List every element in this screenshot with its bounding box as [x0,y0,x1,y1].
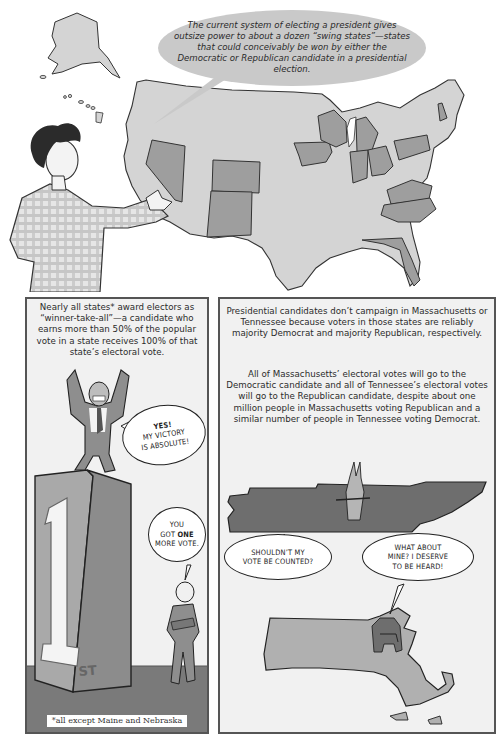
elephant-speech-line-2: MINE? I DESERVE [388,552,448,562]
nantucket-shape [428,716,442,724]
massachusetts-shape [264,608,454,706]
donkey-speech-line-2: VOTE BE COUNTED? [243,557,314,567]
voter-speech-line-3: MORE VOTE. [155,539,199,549]
voter-bubble-tail [185,565,191,580]
presenter-figure [0,110,180,292]
narration-text: The current system of electing a preside… [172,20,412,75]
marthas-vineyard-shape [390,712,408,720]
voter-speech-line-2-pre: GOT [160,530,177,539]
voter-speech-bubble: YOU GOT ONE MORE VOTE. [148,507,206,562]
elephant-speech-line-3: TO BE HEARD! [388,562,448,572]
first-place-pedestal [35,470,131,692]
donkey-speech-bubble: SHOULDN’T MY VOTE BE COUNTED? [224,534,332,580]
voter-speech-emphasis: ONE [178,530,194,539]
footnote: *all except Maine and Nebraska [47,715,187,727]
pedestal-suffix-st: ST [78,662,98,679]
alaska-shape [48,13,120,78]
colorado-shape [212,160,260,193]
safe-states-caption-2: All of Massachusetts’ electoral votes wi… [226,369,488,425]
elephant-speech-bubble: WHAT ABOUT MINE? I DESERVE TO BE HEARD! [362,533,474,581]
state-maps-illustration [220,458,494,732]
elephant-speech-line-1: WHAT ABOUT [388,543,448,553]
top-panel-map-illustration: The current system of electing a preside… [0,0,503,292]
donkey-speech-line-1: SHOULDN’T MY [243,548,314,558]
winner-take-all-caption: Nearly all states* award electors as “wi… [30,302,204,358]
new-mexico-shape [207,191,252,237]
safe-states-caption-1: Presidential candidates don’t campaign i… [226,306,488,340]
voter-speech-line-1: YOU [155,520,199,530]
indiana-shape [350,150,368,183]
winning-candidate-figure [67,370,129,472]
